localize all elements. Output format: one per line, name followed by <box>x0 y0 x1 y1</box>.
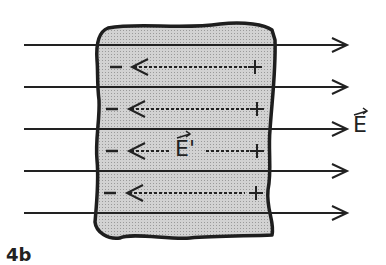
figure-label: 4b <box>6 246 31 264</box>
external-field-label: E <box>353 114 367 136</box>
dielectric-slab <box>95 23 275 238</box>
induced-field-label: E' <box>175 138 195 160</box>
